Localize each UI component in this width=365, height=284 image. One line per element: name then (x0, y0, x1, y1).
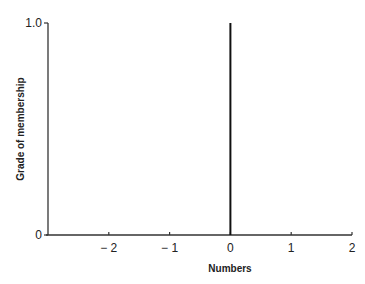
x-tick-label: 2 (349, 241, 356, 255)
y-axis-title: Grade of membership (15, 77, 26, 180)
x-tick-label: − 1 (161, 241, 178, 255)
y-tick-label: 0 (35, 228, 42, 242)
x-axis-title: Numbers (208, 263, 252, 274)
y-tick-label: 1.0 (25, 16, 42, 30)
membership-chart: 01.0− 2− 1012NumbersGrade of membership (0, 0, 365, 284)
axes (44, 23, 352, 235)
x-tick-label: 0 (227, 241, 234, 255)
x-tick-label: − 2 (100, 241, 117, 255)
x-tick-label: 1 (288, 241, 295, 255)
